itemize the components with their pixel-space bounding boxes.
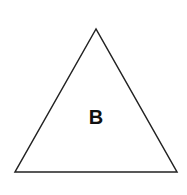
triangle-diagram: B xyxy=(0,0,187,195)
triangle-label: B xyxy=(89,106,103,128)
triangle-shape xyxy=(15,29,177,172)
